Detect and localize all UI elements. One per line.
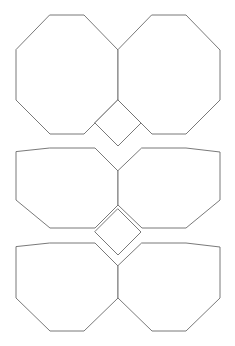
octagon-tiling-diagram bbox=[0, 0, 235, 346]
octagon-layer bbox=[16, 15, 220, 331]
figure-root bbox=[0, 0, 235, 346]
